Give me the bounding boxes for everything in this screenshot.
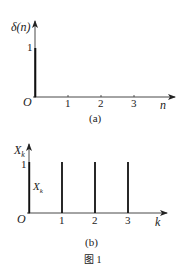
panel-b-xtick-1: 1	[59, 214, 65, 226]
panel-b-inner-label: Xk	[32, 180, 44, 195]
panel-a-xtick-2: 2	[98, 97, 104, 109]
panel-b-subcaption: (b)	[85, 236, 98, 249]
panel-a-ylabel: δ(n)	[11, 20, 31, 34]
panel-a: δ(n) 1 O 1 2 3 n (a)	[11, 20, 175, 125]
panel-b-origin: O	[17, 212, 26, 226]
panel-b-ytick-1: 1	[21, 158, 27, 170]
panel-a-origin: O	[23, 95, 32, 109]
panel-b-ylabel: Xk	[13, 143, 25, 159]
figure: δ(n) 1 O 1 2 3 n (a) Xk 1 Xk O 1 2 3 k (…	[0, 0, 182, 273]
panel-b-xtick-3: 3	[125, 214, 131, 226]
panel-a-xtick-3: 3	[131, 97, 137, 109]
panel-b-xtick-2: 2	[92, 214, 98, 226]
panel-a-subcaption: (a)	[89, 112, 102, 125]
panel-a-xtick-1: 1	[65, 97, 71, 109]
figure-caption: 图 1	[84, 254, 102, 265]
panel-a-xlabel: n	[160, 98, 166, 112]
panel-b: Xk 1 Xk O 1 2 3 k (b)	[13, 143, 167, 249]
panel-b-xlabel: k	[155, 215, 161, 229]
panel-a-ytick-1: 1	[27, 41, 33, 53]
